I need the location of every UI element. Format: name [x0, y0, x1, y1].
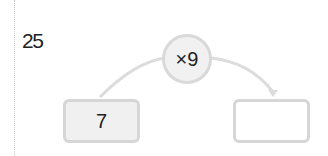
input-box: 7	[63, 99, 140, 143]
arrowhead-icon	[268, 90, 278, 97]
operator-label: ×9	[176, 48, 199, 71]
input-value: 7	[96, 110, 107, 133]
operator-circle: ×9	[162, 34, 212, 84]
answer-box[interactable]	[233, 99, 310, 143]
